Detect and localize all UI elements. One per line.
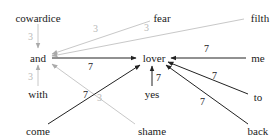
word-graph-diagram: 3 3 3 3 3 7 7 7 7 7 7 cowardice fear fil… (0, 0, 280, 139)
node-back: back (248, 125, 269, 137)
node-lover: lover (143, 52, 166, 64)
edge-back-lover (166, 65, 248, 124)
edge-label-and-lover: 7 (88, 61, 93, 72)
node-come: come (26, 125, 50, 137)
edge-label-yes-lover: 7 (156, 72, 161, 83)
node-and: and (30, 52, 46, 64)
node-shame: shame (138, 125, 166, 137)
node-to: to (254, 91, 263, 103)
edge-label-back-lover: 7 (200, 96, 205, 107)
edge-label-fear-and: 3 (93, 23, 98, 34)
edge-label-with-and: 3 (28, 71, 33, 82)
node-fear: fear (153, 12, 170, 24)
node-yes: yes (145, 88, 160, 100)
edge-come-lover (48, 65, 140, 124)
edge-label-come-lover: 7 (83, 89, 88, 100)
edge-shame-and (52, 64, 135, 124)
edge-label-to-lover: 7 (212, 70, 217, 81)
node-with: with (28, 88, 48, 100)
node-cowardice: cowardice (15, 12, 60, 24)
edge-to-lover (168, 62, 248, 94)
node-me: me (251, 52, 265, 64)
edge-label-me-lover: 7 (204, 43, 209, 54)
nodes: cowardice fear filth and lover me with y… (15, 12, 269, 137)
edge-label-shame-and: 3 (97, 92, 102, 103)
edge-label-filth-and: 3 (144, 22, 149, 33)
edge-fear-and (52, 21, 150, 54)
edge-label-cowardice-and: 3 (28, 31, 33, 42)
node-filth: filth (251, 12, 270, 24)
